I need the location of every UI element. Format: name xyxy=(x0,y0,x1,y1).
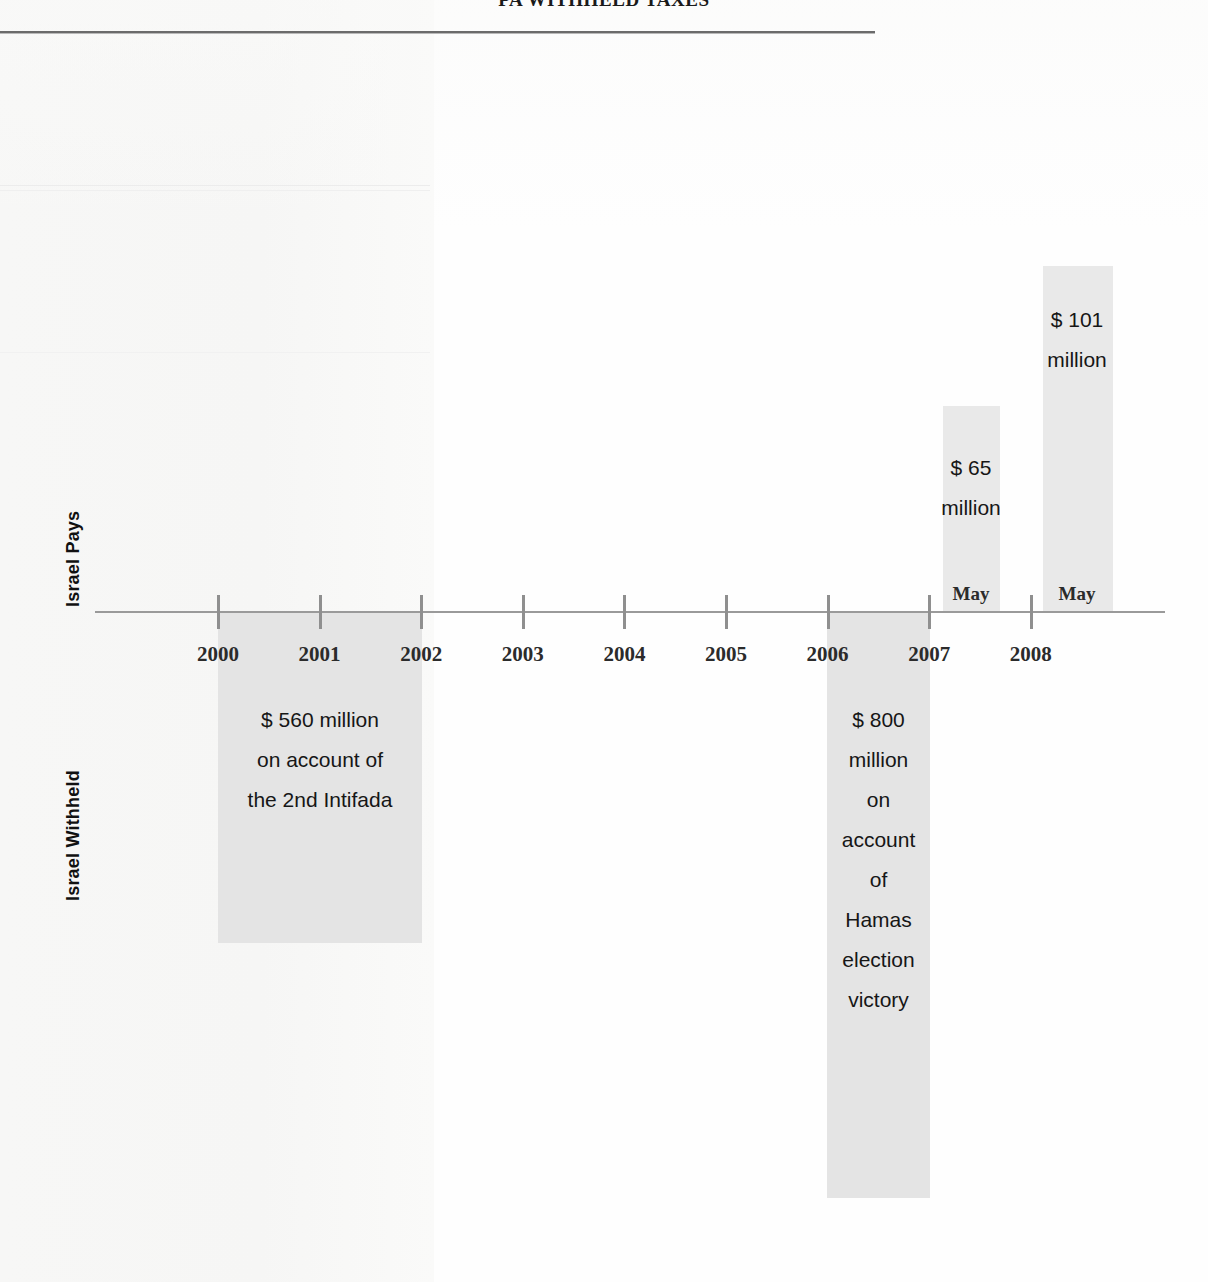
axis-tick-2001 xyxy=(319,595,322,629)
month-label-paid-2008: May xyxy=(1022,583,1132,605)
axis-tick-2002 xyxy=(420,595,423,629)
chart-canvas: PA WITHHELD TAXES Israel Pays Israel Wit… xyxy=(0,0,1208,1282)
axis-tick-2003 xyxy=(522,595,525,629)
axis-tick-2008 xyxy=(1030,595,1033,629)
axis-year-2008: 2008 xyxy=(971,642,1091,667)
axis-tick-2004 xyxy=(623,595,626,629)
axis-tick-2005 xyxy=(725,595,728,629)
axis-label-israel-withheld: Israel Withheld xyxy=(63,770,84,901)
axis-tick-2007 xyxy=(928,595,931,629)
title-divider-shadow xyxy=(0,33,875,34)
paper-texture-top xyxy=(0,0,1208,1282)
bar-label-withheld-2006: $ 800 million on account of Hamas electi… xyxy=(825,700,932,1020)
axis-tick-2000 xyxy=(217,595,220,629)
month-label-paid-2007: May xyxy=(916,583,1026,605)
bar-label-paid-2008: $ 101 million xyxy=(1022,300,1132,380)
page-title: PA WITHHELD TAXES xyxy=(0,0,1208,11)
bar-label-withheld-2000: $ 560 million on account of the 2nd Inti… xyxy=(218,700,422,820)
scan-artifact xyxy=(0,185,430,186)
axis-tick-2006 xyxy=(827,595,830,629)
bar-label-paid-2007: $ 65 million xyxy=(916,448,1026,528)
scan-artifact xyxy=(0,352,430,353)
scan-artifact xyxy=(0,190,430,191)
axis-label-israel-pays: Israel Pays xyxy=(63,511,84,607)
timeline-axis xyxy=(95,611,1165,613)
